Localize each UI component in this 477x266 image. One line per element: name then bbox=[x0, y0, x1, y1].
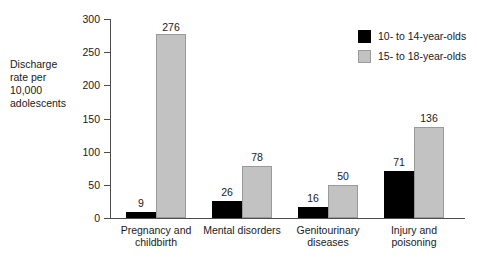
gray-square-swatch-icon bbox=[358, 50, 371, 63]
bar-value-group3-series0: 71 bbox=[379, 157, 419, 168]
bar-group3-series0[interactable] bbox=[384, 171, 414, 218]
bar-value-group1-series0: 26 bbox=[207, 187, 247, 198]
y-tick-label-50: 50 bbox=[70, 180, 100, 191]
bar-group0-series0[interactable] bbox=[126, 212, 156, 218]
y-tick-100 bbox=[104, 152, 110, 153]
bar-group1-series0[interactable] bbox=[212, 201, 242, 218]
y-tick-label-200: 200 bbox=[70, 80, 100, 91]
bar-group3-series1[interactable] bbox=[414, 127, 444, 218]
bar-chart: Discharge rate per 10,000 adolescents 0 … bbox=[0, 0, 477, 266]
y-tick-200 bbox=[104, 85, 110, 86]
y-tick-50 bbox=[104, 185, 110, 186]
x-axis-line bbox=[110, 218, 465, 219]
legend-label-1: 15- to 18-year-olds bbox=[378, 51, 466, 62]
y-tick-label-0: 0 bbox=[70, 213, 100, 224]
legend-item-0[interactable]: 10- to 14-year-olds bbox=[358, 27, 466, 45]
bar-value-group2-series0: 16 bbox=[293, 193, 333, 204]
legend: 10- to 14-year-olds 15- to 18-year-olds bbox=[358, 27, 466, 67]
bar-value-group3-series1: 136 bbox=[409, 113, 449, 124]
bar-value-group0-series1: 276 bbox=[151, 22, 191, 33]
y-tick-label-250: 250 bbox=[70, 47, 100, 58]
legend-item-1[interactable]: 15- to 18-year-olds bbox=[358, 47, 466, 65]
y-tick-label-150: 150 bbox=[70, 114, 100, 125]
y-tick-300 bbox=[104, 19, 110, 20]
y-tick-250 bbox=[104, 52, 110, 53]
bar-value-group1-series1: 78 bbox=[237, 152, 277, 163]
bar-value-group2-series1: 50 bbox=[323, 171, 363, 182]
legend-label-0: 10- to 14-year-olds bbox=[378, 31, 466, 42]
y-tick-label-100: 100 bbox=[70, 147, 100, 158]
y-tick-150 bbox=[104, 119, 110, 120]
black-square-swatch-icon bbox=[358, 30, 371, 43]
bar-group0-series1[interactable] bbox=[156, 34, 186, 218]
y-tick-0 bbox=[104, 218, 110, 219]
y-tick-label-300: 300 bbox=[70, 14, 100, 25]
bar-group2-series0[interactable] bbox=[298, 207, 328, 218]
x-category-label-3: Injury and poisoning bbox=[359, 224, 469, 248]
y-axis-line bbox=[110, 19, 111, 219]
bar-value-group0-series0: 9 bbox=[121, 198, 161, 209]
